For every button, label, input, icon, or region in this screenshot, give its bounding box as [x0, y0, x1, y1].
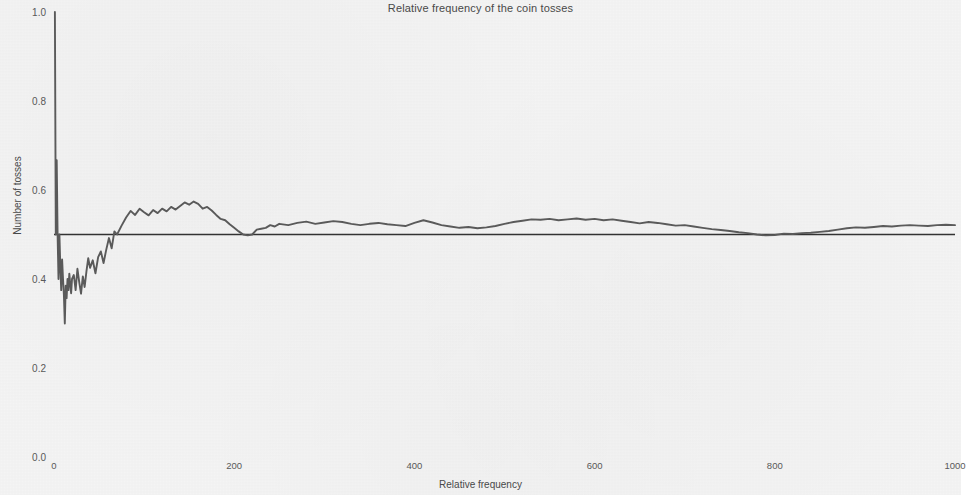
- x-axis-label: Relative frequency: [0, 479, 961, 490]
- x-tick-label: 600: [587, 460, 603, 471]
- x-axis-tick-labels: 02004006008001000: [54, 460, 955, 474]
- y-axis-tick-labels: 0.00.20.40.60.81.0: [14, 12, 46, 457]
- y-tick-label: 0.0: [16, 452, 46, 463]
- y-tick-label: 0.8: [16, 96, 46, 107]
- x-tick-label: 200: [226, 460, 242, 471]
- y-tick-label: 0.6: [16, 185, 46, 196]
- y-tick-label: 1.0: [16, 7, 46, 18]
- y-tick-label: 0.2: [16, 363, 46, 374]
- x-tick-label: 400: [406, 460, 422, 471]
- relative-frequency-line: [55, 12, 955, 324]
- x-tick-label: 800: [767, 460, 783, 471]
- y-tick-label: 0.4: [16, 274, 46, 285]
- chart-plot-svg: [54, 12, 955, 457]
- x-tick-label: 1000: [944, 460, 965, 471]
- x-tick-label: 0: [51, 460, 56, 471]
- plot-area: [54, 12, 955, 457]
